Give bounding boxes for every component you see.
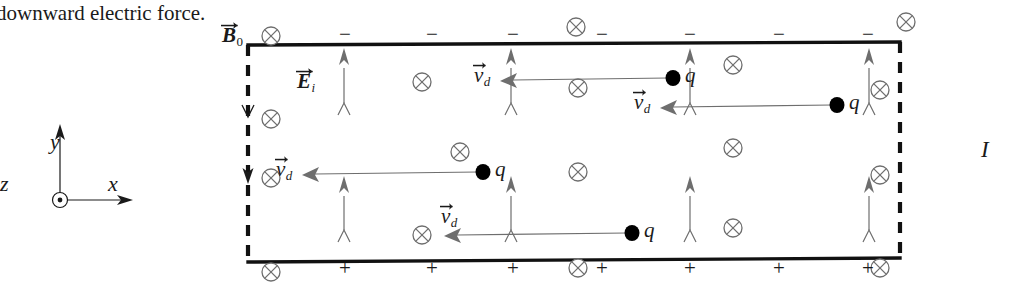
e-field-arrowhead bbox=[864, 48, 874, 65]
charge-label: q bbox=[644, 220, 655, 241]
top-surface-negative-sign: − bbox=[596, 24, 608, 45]
top-surface-negative-sign: − bbox=[426, 24, 438, 45]
bottom-surface-positive-sign: + bbox=[507, 258, 519, 279]
bottom-surface-positive-sign: + bbox=[684, 258, 696, 279]
drift-velocity-label: vd bbox=[441, 206, 457, 229]
e-field-chevron bbox=[684, 230, 696, 242]
e-field-chevron bbox=[863, 103, 875, 115]
e-field-chevron bbox=[684, 103, 696, 115]
top-surface-negative-sign: − bbox=[862, 24, 874, 45]
drift-velocity-label: vd bbox=[474, 65, 490, 88]
e-field-chevron bbox=[505, 103, 517, 115]
e-field-chevron bbox=[338, 103, 350, 115]
charge-label: q bbox=[685, 65, 696, 86]
drift-velocity-shaft bbox=[457, 233, 627, 235]
top-surface-negative-sign: − bbox=[684, 24, 696, 45]
top-surface-negative-sign: − bbox=[339, 24, 351, 45]
vector-arrow-overline bbox=[440, 200, 454, 211]
drift-velocity-label: vd bbox=[276, 159, 292, 182]
e-field-chevron bbox=[505, 230, 517, 242]
charge-carrier-dot bbox=[625, 225, 640, 241]
e-field-arrowhead bbox=[506, 176, 516, 193]
charge-carrier-dot bbox=[476, 164, 491, 180]
e-field-arrowhead bbox=[339, 48, 349, 65]
top-surface-negative-sign: − bbox=[507, 24, 519, 45]
bottom-surface-positive-sign: + bbox=[862, 258, 874, 279]
drift-velocity-shaft bbox=[315, 172, 478, 174]
drift-velocity-subscript: d bbox=[451, 216, 458, 229]
out-of-page-dot-icon bbox=[58, 198, 63, 203]
charge-carrier-dot bbox=[830, 97, 845, 113]
drift-velocity-subscript: d bbox=[644, 102, 651, 115]
bottom-surface-positive-sign: + bbox=[596, 258, 608, 279]
vector-arrow-overline bbox=[473, 59, 487, 70]
e-field-arrowhead bbox=[506, 48, 516, 65]
drift-velocity-subscript: d bbox=[286, 169, 293, 182]
charge-label: q bbox=[849, 92, 860, 113]
charge-carrier-dot bbox=[666, 70, 681, 86]
bottom-surface-positive-sign: + bbox=[426, 258, 438, 279]
e-field-arrowhead bbox=[685, 176, 695, 193]
drift-velocity-shaft bbox=[673, 105, 832, 107]
vector-arrow-overline bbox=[275, 153, 289, 164]
bottom-surface-positive-sign: + bbox=[339, 258, 351, 279]
drift-velocity-label: vd bbox=[634, 92, 650, 115]
e-field-chevron bbox=[863, 230, 875, 242]
hall-effect-figure: downward electric force. y z x B 0 E i I… bbox=[0, 0, 1014, 306]
drift-velocity-shaft bbox=[513, 78, 668, 80]
charge-label: q bbox=[495, 159, 506, 180]
bottom-surface-positive-sign: + bbox=[773, 258, 785, 279]
vector-arrow-overline bbox=[633, 86, 647, 97]
drift-velocity-subscript: d bbox=[484, 75, 491, 88]
top-surface-negative-sign: − bbox=[773, 24, 785, 45]
e-field-chevron bbox=[338, 230, 350, 242]
e-field-arrowhead bbox=[339, 176, 349, 193]
